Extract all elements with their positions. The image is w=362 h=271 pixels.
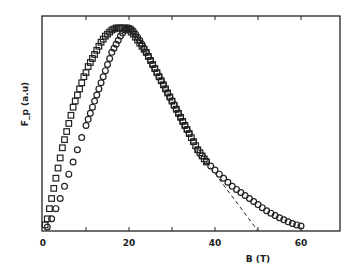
square-marker [70,104,76,110]
circle-marker [87,110,93,116]
circle-marker [90,104,96,110]
circle-marker [105,62,111,68]
circle-marker [70,159,76,165]
x-tick-label: 60 [295,238,308,248]
square-marker [96,43,102,49]
x-tick-label: 20 [123,238,136,248]
square-marker [64,129,70,135]
circle-marker [83,123,89,129]
circle-marker [102,68,108,74]
square-marker [49,196,55,202]
circle-marker [75,147,81,153]
square-marker [53,175,59,181]
circle-marker [62,183,68,189]
square-marker [60,145,66,151]
circle-marker [53,206,59,212]
square-marker [47,206,53,212]
circle-marker [66,171,72,177]
circle-marker [92,98,98,104]
circle-marker [98,80,104,86]
square-marker [51,186,57,192]
x-tick-labels: 0204060 [40,238,307,248]
x-axis-label: B (T) [246,254,270,264]
y-axis-label: F_p (a.u) [20,82,30,126]
plot-frame [42,16,340,231]
circle-marker [94,92,100,98]
square-marker [66,121,72,127]
circle-marker [100,74,106,80]
circle-markers [44,25,304,230]
square-marker [75,92,81,98]
axis-ticks [86,16,301,231]
circle-marker [96,86,102,92]
x-tick-label: 0 [40,238,46,248]
circle-marker [57,196,63,202]
square-marker [88,60,94,66]
circle-marker [191,139,197,145]
square-marker [57,155,63,161]
circle-marker [107,56,113,62]
square-marker [55,165,61,171]
circle-marker [85,116,91,122]
square-marker [92,52,98,58]
square-marker [83,70,89,76]
square-marker [72,98,78,104]
square-marker [94,48,100,54]
square-marker [62,137,68,143]
square-markers [42,25,209,228]
x-tick-label: 40 [209,238,222,248]
square-marker [85,64,91,70]
circle-marker [44,224,50,230]
square-marker [90,56,96,62]
square-marker [68,112,74,118]
square-marker [81,74,87,80]
circle-marker [79,135,85,141]
square-marker [79,80,85,86]
chart: 0204060 B (T) F_p (a.u) [0,0,362,271]
square-marker [77,86,83,92]
